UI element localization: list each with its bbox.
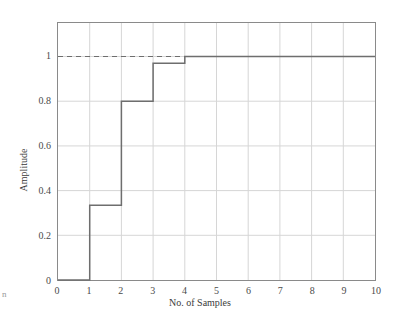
figure: 00.20.40.60.81 012345678910 No. of Sampl… [0, 0, 400, 330]
x-tick-label: 5 [214, 286, 219, 296]
x-tick-label: 7 [278, 286, 283, 296]
y-tick-label: 0.8 [17, 96, 51, 106]
x-tick-label: 3 [150, 286, 155, 296]
data-layer [58, 23, 375, 280]
plot-area [57, 22, 376, 281]
x-tick-label: 4 [182, 286, 187, 296]
x-tick-label: 0 [55, 286, 60, 296]
y-axis-title: Amplitude [18, 149, 29, 192]
x-axis-title: No. of Samples [0, 297, 400, 308]
page-edge-fragment: n [2, 289, 10, 301]
y-tick-label: 0.2 [17, 231, 51, 241]
y-tick-label: 1 [17, 51, 51, 61]
x-tick-label: 1 [86, 286, 91, 296]
x-tick-label: 9 [342, 286, 347, 296]
x-tick-label: 8 [310, 286, 315, 296]
x-tick-label: 6 [246, 286, 251, 296]
x-tick-label: 2 [118, 286, 123, 296]
x-tick-label: 10 [371, 286, 381, 296]
step-response-curve [58, 57, 375, 280]
y-tick-label: 0 [17, 276, 51, 286]
y-axis-title-wrap: Amplitude [16, 130, 30, 210]
